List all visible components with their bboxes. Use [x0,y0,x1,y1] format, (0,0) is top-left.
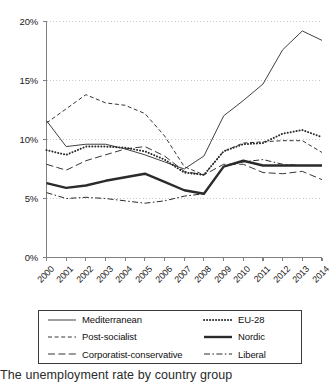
legend-grid: MediterraneanEU-28Post-socialistNordicCo… [39,311,301,363]
figure-caption: The unemployment rate by country group [0,366,332,385]
series-line-mediterranean [47,31,323,169]
legend-label: Post-socialist [82,331,137,342]
series-line-eu-28 [47,130,323,175]
y-tick-label: 5% [4,193,38,204]
legend-item-mediterranean[interactable]: Mediterranean [39,314,199,325]
figure-root: 0%5%10%15%20% 20002001200220032004200520… [0,0,332,385]
legend-swatch-dash-dot [203,349,233,359]
chart-plot-area: 0%5%10%15%20% 20002001200220032004200520… [0,0,332,300]
legend-label: Nordic [238,331,265,342]
legend-label: Mediterranean [82,314,142,325]
legend-label: EU-28 [238,314,264,325]
y-tick-label: 15% [4,75,38,86]
legend-swatch-short-dash [47,332,77,342]
legend-swatch-thin-solid [47,315,77,325]
legend-swatch-long-dash [47,349,77,359]
legend-item-nordic[interactable]: Nordic [199,331,303,342]
line-chart-svg [0,0,332,300]
y-tick-label: 10% [4,134,38,145]
legend-item-eu-28[interactable]: EU-28 [199,314,303,325]
gridlines [47,22,323,258]
legend-swatch-dotted [203,315,233,325]
chart-legend: MediterraneanEU-28Post-socialistNordicCo… [38,310,302,364]
y-tick-label: 20% [4,16,38,27]
legend-label: Corporatist-conservative [82,349,183,360]
legend-swatch-thick-solid [203,332,233,342]
legend-item-post-socialist[interactable]: Post-socialist [39,331,199,342]
legend-item-corporatist-conservative[interactable]: Corporatist-conservative [39,349,199,360]
legend-item-liberal[interactable]: Liberal [199,349,303,360]
data-series-group [47,31,323,203]
series-line-nordic [47,161,323,194]
legend-label: Liberal [238,349,266,360]
y-tick-label: 0% [4,252,38,263]
series-line-corporatist-conservative [47,147,323,180]
series-line-post-socialist [47,95,323,175]
